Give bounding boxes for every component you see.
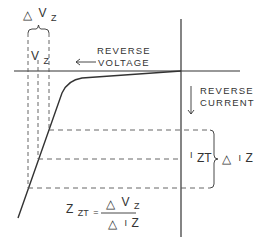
delta-vz-label: △ V Z — [23, 3, 57, 23]
reverse-current-arrow-icon — [188, 86, 194, 114]
zzt-formula: Z ZT = △ V Z △ I Z — [66, 192, 140, 231]
delta-vz-brace — [28, 25, 49, 33]
svg-text:△ V Z: △ V Z — [106, 192, 140, 211]
svg-text:Z ZT =: Z ZT = — [66, 199, 99, 219]
delta-iz-label: △ I Z — [222, 147, 253, 166]
reverse-current-label-line1: REVERSE — [200, 85, 254, 96]
reverse-voltage-label-line1: REVERSE — [97, 45, 151, 56]
reverse-voltage-label-line2: VOLTAGE — [98, 57, 150, 68]
zener-characteristic-diagram: △ V Z V Z REVERSE VOLTAGE REVERSE CURREN… — [0, 0, 272, 238]
iz-dashed-guides — [28, 130, 210, 188]
izt-label: I ZT — [190, 144, 212, 165]
reverse-voltage-arrow-icon — [76, 59, 96, 65]
svg-text:△ I Z: △ I Z — [108, 212, 139, 231]
vz-label: V Z — [31, 46, 49, 66]
reverse-current-label-line2: CURRENT — [200, 97, 255, 108]
characteristic-curve — [18, 71, 181, 218]
